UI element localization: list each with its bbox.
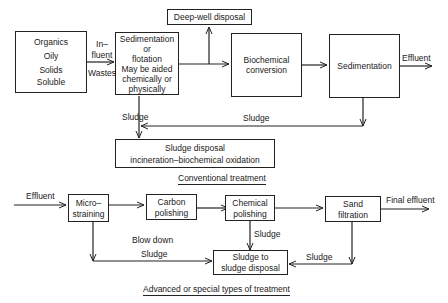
microstraining-box: Micro– straining bbox=[68, 194, 109, 222]
waste-type-oily: Oily bbox=[44, 51, 59, 61]
sed-line-4: May be aided bbox=[121, 64, 172, 74]
sed-line-5: chemically or bbox=[122, 74, 172, 84]
input-wastes-box: Organics Oily Solids Soluble bbox=[15, 31, 87, 93]
sand-line-2: filtration bbox=[338, 210, 368, 220]
sludge-disposal-box: Sludge disposal incineration–biochemical… bbox=[115, 139, 275, 168]
sed-line-3: flotation bbox=[132, 54, 162, 64]
effluent-in-label: Effluent bbox=[26, 191, 55, 201]
micro-line-2: straining bbox=[72, 209, 104, 219]
sludge-disposal-line-1: Sludge disposal bbox=[165, 143, 225, 153]
influent-line-2: fluent bbox=[88, 50, 116, 60]
sedimentation-box: Sedimentation bbox=[329, 34, 400, 98]
waste-type-organics: Organics bbox=[34, 37, 68, 47]
sludge-to-line-1: Sludge to bbox=[233, 252, 269, 262]
advanced-treatment-caption: Advanced or special types of treatment bbox=[143, 284, 290, 296]
waste-type-soluble: Soluble bbox=[37, 77, 65, 87]
sludge-to-line-2: sludge disposal bbox=[221, 263, 280, 273]
waste-type-solids: Solids bbox=[39, 65, 62, 75]
sedimentation-flotation-box: Sedimentation or flotation May be aided … bbox=[115, 32, 179, 95]
carbon-polishing-box: Carbon polishing bbox=[146, 194, 197, 220]
sludge-label-advanced-mid: Sludge bbox=[254, 229, 280, 239]
influent-line-1: In– bbox=[88, 39, 116, 49]
deep-well-label: Deep-well disposal bbox=[174, 12, 245, 22]
micro-line-1: Micro– bbox=[76, 198, 102, 208]
influent-label: In– fluent Wastes bbox=[88, 39, 116, 78]
effluent-label: Effluent bbox=[402, 53, 431, 63]
deep-well-disposal-box: Deep-well disposal bbox=[167, 9, 252, 25]
sed-line-2: or bbox=[143, 44, 151, 54]
sand-filtration-box: Sand filtration bbox=[325, 196, 381, 222]
final-effluent-label: Final effluent bbox=[386, 195, 435, 205]
blow-down-label: Blow down bbox=[132, 235, 173, 245]
carbon-line-2: polishing bbox=[155, 208, 189, 218]
chemical-line-2: polishing bbox=[233, 209, 267, 219]
biochem-line-1: Biochemical bbox=[244, 55, 290, 65]
sludge-disposal-line-2: incineration–biochemical oxidation bbox=[130, 155, 259, 165]
conventional-treatment-caption: Conventional treatment bbox=[178, 173, 266, 185]
sludge-label-left: Sludge bbox=[122, 112, 148, 122]
sludge-label-advanced-right: Sludge bbox=[306, 252, 332, 262]
sedimentation-label: Sedimentation bbox=[337, 61, 391, 71]
sludge-label-return: Sludge bbox=[243, 113, 269, 123]
sed-line-1: Sedimentation bbox=[120, 34, 174, 44]
biochemical-conversion-box: Biochemical conversion bbox=[231, 33, 302, 97]
influent-line-3: Wastes bbox=[88, 68, 116, 78]
sludge-label-advanced-left: Sludge bbox=[141, 249, 167, 259]
sand-line-1: Sand bbox=[343, 199, 363, 209]
biochem-line-2: conversion bbox=[246, 65, 287, 75]
chemical-polishing-box: Chemical polishing bbox=[225, 195, 275, 221]
carbon-line-1: Carbon bbox=[158, 197, 186, 207]
sludge-to-disposal-box: Sludge to sludge disposal bbox=[213, 250, 288, 275]
chemical-line-1: Chemical bbox=[232, 198, 267, 208]
sed-line-6: physically bbox=[129, 84, 166, 94]
